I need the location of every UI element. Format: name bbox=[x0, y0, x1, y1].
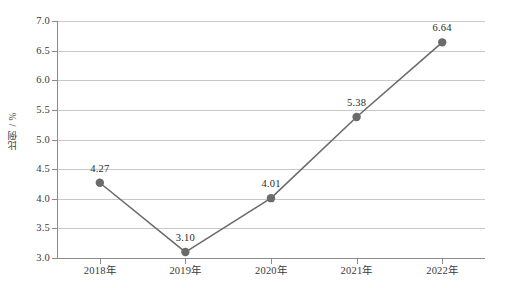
data-point-label: 6.64 bbox=[412, 23, 472, 34]
data-point-label: 3.10 bbox=[155, 233, 215, 244]
data-point-label: 4.01 bbox=[241, 179, 301, 190]
data-point-marker bbox=[267, 194, 275, 202]
data-point-label: 4.27 bbox=[70, 164, 130, 175]
series-line-比例 bbox=[100, 42, 442, 252]
data-point-marker bbox=[96, 179, 104, 187]
data-point-label: 5.38 bbox=[327, 98, 387, 109]
series-layer bbox=[0, 0, 506, 288]
series-markers bbox=[96, 38, 447, 256]
data-point-marker bbox=[181, 248, 189, 256]
line-chart: 比例 / % 3.03.54.04.55.05.56.06.57.0 2018年… bbox=[0, 0, 506, 288]
data-point-marker bbox=[352, 113, 360, 121]
data-point-marker bbox=[438, 38, 446, 46]
